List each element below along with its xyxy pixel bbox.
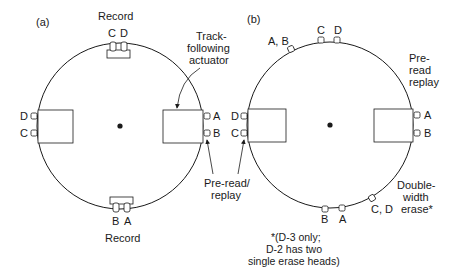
head-label: B <box>424 127 431 139</box>
footnote-line: *(D-3 only; <box>271 231 321 243</box>
preread-label-b: replay <box>409 76 439 88</box>
block-left-b <box>248 109 286 142</box>
preread-label: Pre-read/ <box>204 177 251 189</box>
erase-label: width <box>402 191 429 203</box>
preread-label-b: Pre- <box>409 52 430 64</box>
head-label: C <box>108 27 116 39</box>
head-label: D <box>334 24 342 36</box>
head-label: B <box>321 213 328 225</box>
spindle-a <box>117 123 122 128</box>
footnote-line: D-2 has two <box>266 243 322 255</box>
head-b-right-b <box>414 130 420 136</box>
head-d-left-a <box>31 113 37 119</box>
head-c-top-b <box>318 37 324 43</box>
head-label: C <box>231 127 239 139</box>
head-a-right-a <box>204 113 210 119</box>
head-a-bottom-b <box>339 205 345 211</box>
head-label: C <box>20 127 28 139</box>
erase-label: Double- <box>397 179 436 191</box>
head-c-left-a <box>31 130 37 136</box>
actuator-block-a <box>163 110 203 143</box>
head-label: C <box>317 24 325 36</box>
record-bottom-label-a: Record <box>105 232 140 244</box>
head-label: D <box>120 27 128 39</box>
head-b-bottom-b <box>322 206 328 212</box>
head-label: D <box>231 110 239 122</box>
spindle-b <box>327 122 332 127</box>
panel-a: (a) Record C D B A Record D C <box>20 10 230 244</box>
head-label: A <box>213 110 221 122</box>
record-top-label-a: Record <box>98 10 133 22</box>
head-label: A <box>124 215 132 227</box>
panel-a-tag: (a) <box>36 16 49 28</box>
panel-b-tag: (b) <box>247 13 260 25</box>
head-label: A <box>424 109 432 121</box>
actuator-label: following <box>187 42 230 54</box>
actuator-arrow <box>177 68 200 108</box>
head-label: B <box>213 127 220 139</box>
panel-b: (b) C D A, B Pre- read replay D C A B B … <box>231 13 439 267</box>
head-d-top-b <box>334 37 340 43</box>
head-b-right-a <box>204 130 210 136</box>
head-label: A <box>339 213 347 225</box>
actuator-label: Track- <box>196 30 227 42</box>
preread-arrow-b <box>238 140 244 174</box>
actuator-label: actuator <box>189 54 229 66</box>
footnote-line: single erase heads) <box>248 255 340 267</box>
head-label: A, B <box>268 35 289 47</box>
drum-head-diagram: (a) Record C D B A Record D C <box>0 0 458 277</box>
preread-label-b: read <box>409 64 431 76</box>
block-right-b <box>374 109 413 142</box>
head-a-right-b <box>414 112 420 118</box>
erase-heads-label: C, D <box>371 203 393 215</box>
preread-label: replay <box>211 189 241 201</box>
head-d-left-b <box>241 113 247 119</box>
record-head-top-a <box>107 42 130 58</box>
record-head-bottom-a <box>110 197 133 212</box>
block-left-a <box>38 110 73 143</box>
head-c-left-b <box>241 130 247 136</box>
erase-label: erase* <box>401 203 434 215</box>
preread-callout: Pre-read/ replay <box>204 140 251 201</box>
preread-arrow-a <box>207 140 213 174</box>
head-label: B <box>112 215 119 227</box>
head-label: D <box>20 110 28 122</box>
